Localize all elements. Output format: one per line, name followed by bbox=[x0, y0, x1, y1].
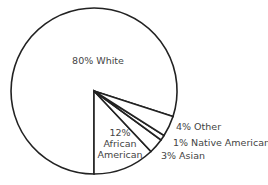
label-african-american-1: African bbox=[103, 138, 136, 149]
label-white: 80% White bbox=[72, 55, 124, 66]
label-african-american-2: American bbox=[97, 149, 142, 160]
pie-chart: 80% White 12% African American 4% Other … bbox=[0, 0, 268, 185]
pie bbox=[11, 8, 177, 174]
label-native-american: 1% Native American bbox=[173, 137, 268, 148]
label-asian: 3% Asian bbox=[161, 150, 205, 161]
label-other: 4% Other bbox=[176, 121, 221, 132]
label-african-american-pct: 12% bbox=[109, 127, 130, 138]
